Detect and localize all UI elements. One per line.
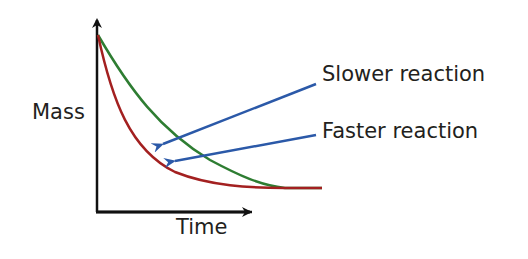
- y-axis-label: Mass: [32, 100, 85, 124]
- slower-reaction-label: Slower reaction: [322, 62, 485, 86]
- slower-arrow: [163, 84, 316, 144]
- x-axis-label: Time: [176, 215, 227, 239]
- slower-reaction-curve: [98, 35, 322, 188]
- faster-reaction-curve: [98, 35, 322, 188]
- faster-arrow: [175, 135, 316, 161]
- faster-reaction-label: Faster reaction: [322, 119, 478, 143]
